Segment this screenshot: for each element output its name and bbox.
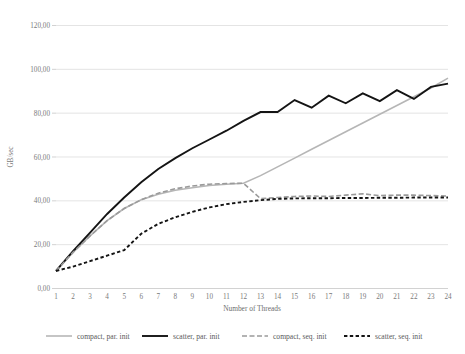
y-tick-label: 0,00 xyxy=(37,285,50,293)
series-line-2 xyxy=(56,183,448,271)
x-tick-label: 8 xyxy=(174,293,178,301)
x-tick-label: 10 xyxy=(206,293,214,301)
x-tick-label: 5 xyxy=(122,293,126,301)
chart-legend: compact, par. initscatter, par. initcomp… xyxy=(46,332,423,341)
x-tick-label: 12 xyxy=(240,293,248,301)
series-line-3 xyxy=(56,198,448,271)
x-tick-label: 1 xyxy=(54,293,58,301)
legend-label-2: compact, seq. init xyxy=(273,332,327,341)
x-tick-label: 7 xyxy=(156,293,160,301)
x-tick-label: 11 xyxy=(223,293,230,301)
x-tick-label: 4 xyxy=(105,293,109,301)
y-tick-label: 80,00 xyxy=(34,110,51,118)
y-axis-title: GB/sec xyxy=(7,146,15,167)
legend-label-0: compact, par. init xyxy=(77,332,131,341)
legend-label-1: scatter, par. init xyxy=(173,332,220,341)
x-tick-label: 14 xyxy=(274,293,282,301)
chart-container: 0,0020,0040,0060,0080,00100,00120,00 123… xyxy=(0,0,465,354)
y-tick-label: 60,00 xyxy=(34,154,51,162)
x-tick-label: 19 xyxy=(359,293,367,301)
y-tick-label: 120,00 xyxy=(30,22,50,30)
y-axis-tick-labels: 0,0020,0040,0060,0080,00100,00120,00 xyxy=(30,22,56,293)
x-tick-label: 6 xyxy=(139,293,143,301)
legend-label-3: scatter, seq. init xyxy=(375,332,423,341)
x-tick-label: 16 xyxy=(308,293,316,301)
x-tick-label: 2 xyxy=(71,293,75,301)
line-chart: 0,0020,0040,0060,0080,00100,00120,00 123… xyxy=(0,0,465,354)
x-tick-label: 15 xyxy=(291,293,299,301)
gridlines xyxy=(56,26,448,289)
x-tick-label: 24 xyxy=(444,293,452,301)
x-tick-label: 13 xyxy=(257,293,265,301)
x-tick-label: 9 xyxy=(191,293,195,301)
x-tick-label: 20 xyxy=(376,293,384,301)
y-tick-label: 100,00 xyxy=(30,66,50,74)
series-line-0 xyxy=(56,78,448,271)
x-tick-label: 22 xyxy=(410,293,418,301)
y-tick-label: 20,00 xyxy=(34,241,51,249)
data-series-group xyxy=(56,78,448,271)
x-axis-title: Number of Threads xyxy=(223,304,281,313)
series-line-1 xyxy=(56,84,448,271)
x-tick-label: 23 xyxy=(427,293,435,301)
x-tick-label: 17 xyxy=(325,293,333,301)
x-axis-tick-labels: 123456789101112131415161718192021222324 xyxy=(54,293,452,301)
x-tick-label: 21 xyxy=(393,293,401,301)
x-tick-label: 18 xyxy=(342,293,350,301)
y-tick-label: 40,00 xyxy=(34,197,51,205)
x-tick-label: 3 xyxy=(88,293,92,301)
